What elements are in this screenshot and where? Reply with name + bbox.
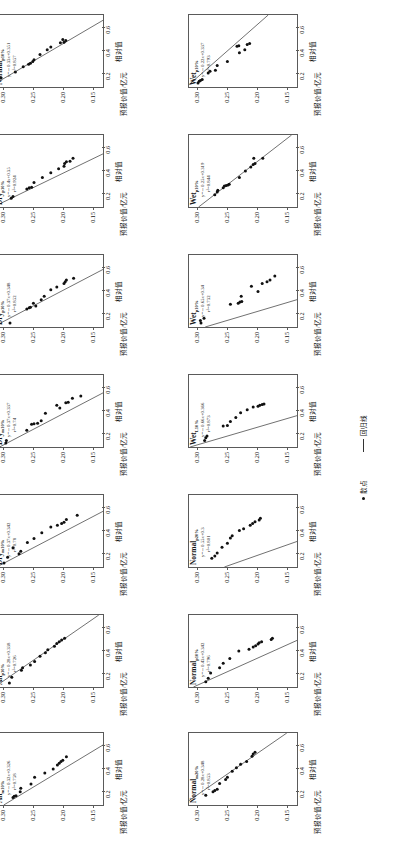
y-axis-tick-label: 0.25 — [223, 332, 230, 356]
equation-text: y=－0.22x+0.337 — [200, 43, 205, 77]
scatter-point — [65, 755, 68, 758]
scatter-point — [261, 157, 264, 160]
y-axis-tick-label: 0.15 — [283, 572, 290, 596]
equation-text: y=－0.28x+0.348 — [200, 761, 205, 795]
y-axis-label: 预报价值/亿元 — [118, 72, 128, 116]
legend-item-scatter: 散点 — [358, 480, 368, 500]
regression-equation: y=－0.33x+0.351r²=0.857 — [6, 43, 18, 77]
legend-label-scatter: 散点 — [358, 480, 368, 494]
scatter-point — [49, 171, 52, 174]
scatter-point — [237, 650, 240, 653]
panel-title-text: All — [0, 676, 4, 685]
scatter-point — [249, 524, 252, 527]
scatter-point — [245, 760, 248, 763]
r-squared-text: r²=0.852 — [12, 283, 18, 312]
x-axis-tick-mark — [296, 387, 299, 388]
y-axis-tick-label: 0.15 — [283, 692, 290, 716]
scatter-point — [203, 317, 206, 320]
x-axis-tick-label: 0.2 — [298, 552, 305, 560]
y-axis-tick-mark — [33, 88, 34, 91]
scatter-point — [204, 680, 207, 683]
y-axis-label: 预报价值/亿元 — [312, 72, 322, 116]
y-axis-tick-label: 0.25 — [29, 452, 36, 476]
y-axis-tick-mark — [93, 328, 94, 331]
x-axis-tick-label: 0.4 — [298, 529, 305, 537]
scatter-point — [263, 403, 266, 406]
x-axis-label: 相对值 — [307, 641, 317, 662]
x-axis-label: 相对值 — [113, 521, 123, 542]
scatter-point — [58, 640, 61, 643]
x-axis-tick-mark — [102, 290, 105, 291]
scatter-point — [216, 788, 219, 791]
scatter-point — [65, 160, 68, 163]
scatter-point — [203, 439, 206, 442]
panel-title: Normalp20% — [190, 529, 200, 565]
equation-text: y=－0.25x+0.319 — [200, 163, 205, 197]
r-squared-text: r²=0.844 — [206, 163, 212, 192]
y-axis-tick-mark — [63, 328, 64, 331]
scatter-point — [33, 181, 36, 184]
y-axis-label: 预报价值/亿元 — [312, 432, 322, 476]
regression-equation: y=－0.65x+0.34r²=0.732 — [200, 285, 212, 317]
scatter-point — [40, 298, 43, 301]
scatter-point — [226, 542, 229, 545]
x-axis-label: 相对值 — [113, 41, 123, 62]
x-axis-tick-mark — [102, 50, 105, 51]
x-axis-label: 相对值 — [113, 759, 123, 780]
scatter-point — [39, 53, 42, 56]
x-axis-tick-label: 0.6 — [104, 626, 111, 634]
y-axis-tick-label: 0.25 — [223, 452, 230, 476]
y-axis-tick-label: 0.25 — [223, 810, 230, 834]
y-axis-tick-mark — [33, 688, 34, 691]
scatter-point — [222, 662, 225, 665]
scatter-point — [229, 420, 232, 423]
scatter-point — [8, 681, 11, 684]
scatter-point — [261, 282, 264, 285]
panel-title-text: Dry — [0, 553, 4, 565]
scatter-point — [22, 65, 25, 68]
equation-text: y=－0.28x+0.338 — [6, 643, 11, 677]
y-axis-tick-mark — [93, 448, 94, 451]
y-axis-tick-mark — [197, 688, 198, 691]
scatter-point — [40, 531, 43, 534]
panel-title: Normalm20% — [190, 766, 200, 803]
panel-title: Normalp10% — [190, 649, 200, 685]
panel-title-text: Wet — [189, 432, 198, 445]
scatter-point — [63, 165, 66, 168]
y-axis-tick-label: 0.15 — [89, 810, 96, 834]
scatter-point — [254, 751, 257, 754]
equation-text: y=－0.37x+0.337 — [6, 403, 11, 437]
scatter-point — [243, 48, 246, 51]
scatter-point — [57, 167, 60, 170]
chart-panel: Dryp10%y=－0.37x+0.348r²=0.8520.300.250.2… — [0, 248, 140, 358]
scatter-point — [64, 39, 67, 42]
scatter-point — [46, 648, 49, 651]
y-axis-tick-mark — [3, 688, 4, 691]
y-axis-tick-label: 0.25 — [223, 692, 230, 716]
scatter-point — [260, 640, 263, 643]
scatter-point — [254, 644, 257, 647]
y-axis-tick-mark — [257, 688, 258, 691]
x-axis-tick-mark — [296, 507, 299, 508]
x-axis-tick-label: 0.2 — [104, 552, 111, 560]
y-axis-tick-mark — [93, 568, 94, 571]
x-axis-tick-mark — [102, 627, 105, 628]
scatter-point — [216, 552, 219, 555]
scatter-point — [252, 157, 255, 160]
y-axis-tick-label: 0.15 — [89, 452, 96, 476]
y-axis-label: 预报价值/亿元 — [312, 552, 322, 596]
scatter-point — [29, 62, 32, 65]
chart-panel: Allp10%y=－0.28x+0.338r²=0.7260.300.250.2… — [0, 608, 140, 718]
r-squared-text: r²=0.78 — [12, 523, 18, 552]
x-axis-tick-mark — [102, 673, 105, 674]
scatter-point — [25, 429, 28, 432]
scatter-point — [250, 285, 253, 288]
x-axis-tick-mark — [102, 27, 105, 28]
x-axis-tick-mark — [296, 768, 299, 769]
panel-title-text: Dry — [0, 193, 4, 205]
scatter-point — [239, 763, 242, 766]
scatter-point — [244, 170, 247, 173]
x-axis-tick-label: 0.4 — [104, 289, 111, 297]
equation-text: y=－0.65x+0.34 — [200, 285, 205, 317]
equation-text: y=－0.32x+0.326 — [6, 761, 11, 795]
